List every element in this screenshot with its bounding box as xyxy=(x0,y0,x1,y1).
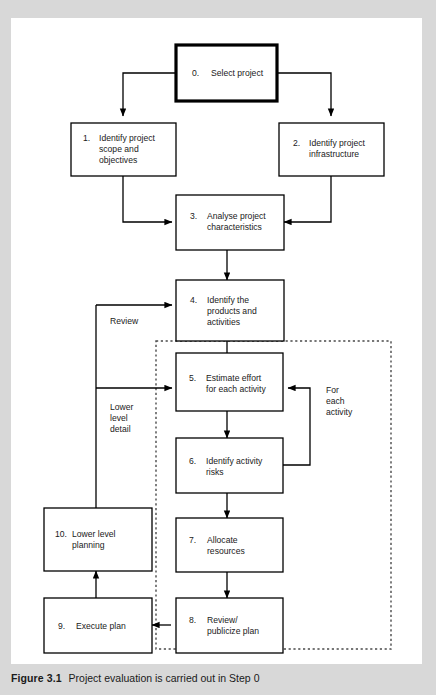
node-4-number: 4. xyxy=(190,295,197,305)
node-0-select-project[interactable]: 0. Select project xyxy=(176,45,277,101)
edge-0-to-1 xyxy=(123,73,176,116)
node-3-analyse-project-characteristics[interactable]: 3. Analyse project characteristics xyxy=(176,195,284,250)
node-2-number: 2. xyxy=(293,138,300,148)
annotation-lower-line3: detail xyxy=(110,424,131,434)
node-5-line2: for each activity xyxy=(206,384,266,394)
annotation-foreach-line2: each xyxy=(326,396,345,406)
flowchart-diagram: 0. Select project 1. Identify project sc… xyxy=(11,18,422,664)
node-1-line3: objectives xyxy=(99,155,137,165)
annotation-review: Review xyxy=(110,316,139,326)
node-1-identify-project-scope[interactable]: 1. Identify project scope and objectives xyxy=(71,123,176,176)
annotation-lower-level-detail: Lower level detail xyxy=(110,402,134,434)
node-1-line1: Identify project xyxy=(99,133,156,143)
node-0-number: 0. xyxy=(192,68,199,78)
figure-caption-label: Figure 3.1 xyxy=(11,672,62,684)
node-5-estimate-effort[interactable]: 5. Estimate effort for each activity xyxy=(176,353,283,411)
node-7-number: 7. xyxy=(189,535,196,545)
node-7-allocate-resources[interactable]: 7. Allocate resources xyxy=(176,518,283,572)
node-1-number: 1. xyxy=(83,133,90,143)
node-6-number: 6. xyxy=(189,456,196,466)
node-8-line2: publicize plan xyxy=(207,626,259,636)
node-7-line1: Allocate xyxy=(207,535,238,545)
node-6-line1: Identify activity xyxy=(206,456,263,466)
node-2-line1: Identify project xyxy=(309,138,366,148)
figure-caption: Figure 3.1Project evaluation is carried … xyxy=(11,672,431,684)
node-3-line2: characteristics xyxy=(207,222,262,232)
node-2-line2: infrastructure xyxy=(309,149,359,159)
figure-panel: 0. Select project 1. Identify project sc… xyxy=(11,18,422,664)
edge-2-to-3 xyxy=(284,176,331,222)
node-10-number: 10. xyxy=(55,529,67,539)
node-8-review-publicize-plan[interactable]: 8. Review/ publicize plan xyxy=(176,598,283,653)
node-6-identify-activity-risks[interactable]: 6. Identify activity risks xyxy=(176,438,283,493)
node-4-line2: products and xyxy=(207,306,257,316)
node-9-line1: Execute plan xyxy=(76,621,126,631)
edge-0-to-2 xyxy=(277,73,331,116)
edge-6-to-5-loop xyxy=(283,388,310,465)
node-10-line2: planning xyxy=(72,540,105,550)
figure-caption-text: Project evaluation is carried out in Ste… xyxy=(69,672,260,684)
edge-1-to-3 xyxy=(123,176,172,222)
node-3-line1: Analyse project xyxy=(207,211,266,221)
node-4-line3: activities xyxy=(207,317,240,327)
node-10-line1: Lower level xyxy=(72,529,116,539)
node-1-line2: scope and xyxy=(99,144,139,154)
node-8-number: 8. xyxy=(189,615,196,625)
node-2-identify-project-infrastructure[interactable]: 2. Identify project infrastructure xyxy=(279,123,384,176)
node-3-number: 3. xyxy=(190,211,197,221)
annotation-for-each-activity: For each activity xyxy=(326,385,353,417)
node-9-number: 9. xyxy=(58,621,65,631)
annotation-lower-line2: level xyxy=(110,413,128,423)
annotation-foreach-line1: For xyxy=(326,385,339,395)
node-0-line1: Select project xyxy=(211,68,264,78)
node-10-lower-level-planning[interactable]: 10. Lower level planning xyxy=(44,508,152,571)
figure-background: 0. Select project 1. Identify project sc… xyxy=(0,0,436,695)
node-9-execute-plan[interactable]: 9. Execute plan xyxy=(44,598,152,653)
annotation-foreach-line3: activity xyxy=(326,407,353,417)
node-6-line2: risks xyxy=(206,467,224,477)
node-5-number: 5. xyxy=(189,373,196,383)
node-8-line1: Review/ xyxy=(207,615,238,625)
annotation-review-line1: Review xyxy=(110,316,139,326)
annotation-lower-line1: Lower xyxy=(110,402,134,412)
node-4-identify-products-activities[interactable]: 4. Identify the products and activities xyxy=(176,280,284,341)
node-7-line2: resources xyxy=(207,546,245,556)
node-4-line1: Identify the xyxy=(207,295,249,305)
node-5-line1: Estimate effort xyxy=(206,373,262,383)
